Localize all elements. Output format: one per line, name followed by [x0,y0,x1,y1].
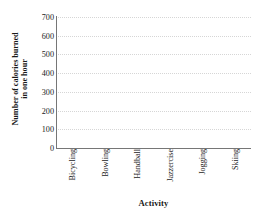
x-tick-label-skiing: Skiing [230,149,239,170]
x-tick-slot-skiing: Skiing [219,149,251,195]
x-tick-slot-bowling: Bowling [89,149,121,195]
y-tick-label-300: 300 [28,87,54,96]
x-tick-label-bicycling: Bicycling [68,149,77,180]
gridline-500 [56,54,251,55]
x-tick-label-bowling: Bowling [100,149,109,177]
gridline-700 [56,17,251,18]
gridline-400 [56,73,251,74]
gridline-100 [56,129,251,130]
x-tick-label-handball: Handball [133,149,142,179]
x-axis-title: Activity [56,198,251,208]
y-axis-line [56,16,57,149]
y-tick-label-700: 700 [28,13,54,22]
x-tick-slot-bicycling: Bicycling [56,149,88,195]
plot-area [56,17,251,148]
gridline-300 [56,92,251,93]
x-tick-label-jazzercise: Jazzercise [165,149,174,182]
y-axis-tick-labels: 700 600 500 400 300 200 100 0 [28,12,54,154]
y-tick-label-500: 500 [28,50,54,59]
y-tick-label-200: 200 [28,106,54,115]
bar-chart-figure: Number of calories burned in one hour 70… [0,0,270,219]
x-tick-slot-jazzercise: Jazzercise [154,149,186,195]
x-tick-slot-jogging: Jogging [186,149,218,195]
gridline-600 [56,36,251,37]
y-tick-label-400: 400 [28,69,54,78]
x-tick-slot-handball: Handball [121,149,153,195]
y-tick-label-600: 600 [28,31,54,40]
x-axis-tick-labels: Bicycling Bowling Handball Jazzercise Jo… [56,149,251,195]
y-tick-label-0: 0 [28,144,54,153]
y-tick-label-100: 100 [28,125,54,134]
gridline-200 [56,111,251,112]
x-tick-label-jogging: Jogging [198,149,207,175]
